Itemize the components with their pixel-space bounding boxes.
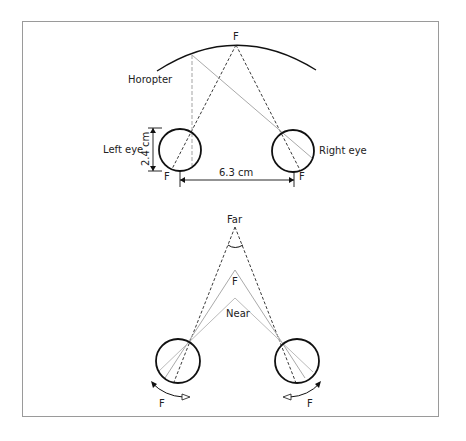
far-right-line [235, 227, 296, 383]
right-eye [272, 130, 314, 172]
near-label: Near [226, 308, 251, 319]
far-label: Far [227, 214, 243, 225]
left-eye-bottom [156, 339, 200, 383]
left-eye-label: Left eye [103, 144, 143, 155]
right-corresponding-line [192, 55, 312, 158]
binocular-vision-diagram: F Horopter Left eye Right eye 2.4 cm 6.3… [0, 0, 466, 441]
interocular-distance-label: 6.3 cm [219, 167, 253, 178]
right-eye-bottom [275, 339, 319, 383]
right-fovea-label-bottom: F [307, 398, 313, 409]
horopter-arc [157, 45, 316, 71]
far-left-line [174, 227, 235, 382]
near-left-line [158, 298, 235, 372]
fixation-right-line [235, 270, 305, 378]
horopter-label: Horopter [128, 74, 173, 85]
convergence-angle-arc [228, 245, 243, 248]
left-fovea-label-bottom: F [159, 398, 165, 409]
fixation-label-bottom: F [232, 276, 238, 287]
right-eye-rotation-arrow [290, 383, 320, 397]
right-visual-axis [236, 45, 300, 170]
right-eye-label: Right eye [319, 145, 367, 156]
eye-diameter-label: 2.4 cm [140, 132, 151, 166]
left-fovea-label: F [164, 171, 170, 182]
bottom-diagram: Far F Near F F [151, 214, 321, 409]
right-fovea-label: F [299, 171, 305, 182]
left-visual-axis [172, 45, 236, 169]
left-eye [159, 129, 201, 171]
top-diagram: F Horopter Left eye Right eye 2.4 cm 6.3… [103, 31, 367, 187]
fixation-point-label: F [233, 31, 239, 42]
left-eye-rotation-arrow [152, 383, 183, 397]
